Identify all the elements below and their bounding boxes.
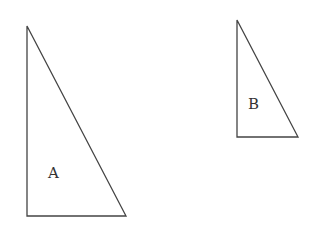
- triangle-b-label: B: [248, 95, 259, 113]
- triangle-a: [27, 26, 126, 216]
- triangle-a-label: A: [47, 164, 59, 182]
- triangle-b: [237, 20, 298, 137]
- diagram-canvas: A B: [0, 0, 309, 226]
